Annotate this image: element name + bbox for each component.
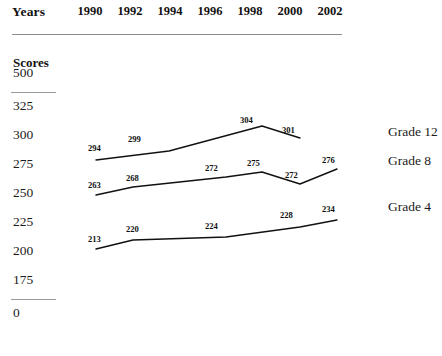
point-value-label: 304: [240, 115, 253, 125]
chart-page: Years 1990199219941996199820002002 Score…: [0, 0, 442, 356]
series-label-grade-8: Grade 8: [388, 153, 431, 169]
point-value-label: 272: [205, 163, 218, 173]
point-value-label: 220: [126, 224, 139, 234]
series-label-grade-12: Grade 12: [388, 124, 438, 140]
series-line-grade-12: [96, 126, 300, 160]
point-value-label: 301: [282, 125, 295, 135]
point-value-label: 263: [88, 180, 101, 190]
point-value-label: 234: [322, 204, 335, 214]
point-value-label: 213: [88, 234, 101, 244]
point-value-label: 275: [247, 158, 260, 168]
point-value-label: 272: [285, 170, 298, 180]
chart-plot-area: [0, 0, 442, 356]
point-value-label: 276: [322, 155, 335, 165]
point-value-label: 268: [126, 173, 139, 183]
point-value-label: 224: [205, 221, 218, 231]
point-value-label: 228: [280, 210, 293, 220]
series-label-grade-4: Grade 4: [388, 199, 431, 215]
point-value-label: 294: [88, 143, 101, 153]
point-value-label: 299: [128, 134, 141, 144]
